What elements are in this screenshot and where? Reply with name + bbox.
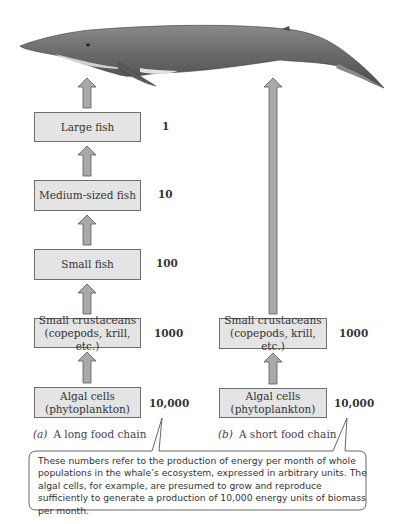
whale-illustration xyxy=(20,25,384,88)
chain-a-caption: (a)A long food chain xyxy=(33,428,147,440)
callout-text: These numbers refer to the production of… xyxy=(38,455,368,517)
chain-a-box-large-fish: Large fish xyxy=(34,112,141,142)
chain-a-box-small-fish: Small fish xyxy=(34,249,141,280)
chain-a-value-large-fish: 1 xyxy=(162,120,169,132)
chain-a-box-algal-cells: Algal cells (phytoplankton) xyxy=(34,387,141,418)
arrow-up-icon xyxy=(264,353,282,384)
arrow-up-icon xyxy=(78,78,96,108)
chain-a-value-small-fish: 100 xyxy=(156,257,178,269)
chain-a-value-crustaceans: 1000 xyxy=(154,327,183,339)
chain-a-box-medium-fish: Medium-sized fish xyxy=(34,180,141,211)
whale-eye xyxy=(86,44,90,47)
arrow-up-icon xyxy=(78,215,96,245)
chain-a-box-crustaceans: Small crustaceans (copepods, krill, etc.… xyxy=(34,318,141,348)
chain-a-value-medium-fish: 10 xyxy=(158,188,173,200)
chain-b-value-crustaceans: 1000 xyxy=(339,327,368,339)
chain-b-box-algal-cells: Algal cells (phytoplankton) xyxy=(219,388,327,418)
chain-a-value-algal-cells: 10,000 xyxy=(149,397,189,409)
whale-body xyxy=(20,25,384,88)
arrow-up-icon xyxy=(78,146,96,176)
chain-b-value-algal-cells: 10,000 xyxy=(334,397,374,409)
chain-b-box-crustaceans: Small crustaceans (copepods, krill, etc.… xyxy=(219,318,327,349)
chain-b-caption: (b)A short food chain xyxy=(218,428,337,440)
arrow-up-icon xyxy=(264,78,282,314)
arrow-up-icon xyxy=(78,284,96,314)
arrow-up-icon xyxy=(78,352,96,383)
